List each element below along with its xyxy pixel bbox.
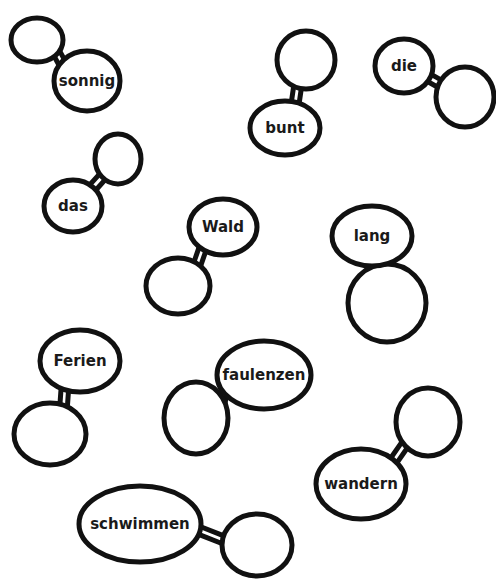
word-label: faulenzen bbox=[223, 366, 306, 384]
empty-speech-bubble bbox=[396, 388, 460, 456]
empty-speech-bubble bbox=[277, 31, 335, 89]
word-group-ferien: Ferien bbox=[14, 330, 120, 465]
word-label: wandern bbox=[324, 475, 398, 493]
empty-speech-bubble bbox=[436, 67, 494, 127]
word-group-lang: lang bbox=[332, 206, 426, 342]
word-label: bunt bbox=[265, 119, 304, 137]
empty-speech-bubble bbox=[348, 264, 426, 342]
word-label: das bbox=[58, 197, 88, 215]
empty-speech-bubble bbox=[95, 134, 141, 184]
word-group-schwimmen: schwimmen bbox=[79, 486, 292, 576]
word-group-wald: Wald bbox=[146, 199, 257, 314]
word-label: lang bbox=[354, 227, 391, 245]
empty-speech-bubble bbox=[222, 514, 292, 576]
empty-speech-bubble bbox=[146, 258, 210, 314]
word-label: schwimmen bbox=[90, 515, 190, 533]
word-group-die: die bbox=[375, 39, 494, 127]
word-label: Wald bbox=[202, 218, 244, 236]
word-group-faulenzen: faulenzen bbox=[164, 341, 311, 454]
word-label: Ferien bbox=[53, 352, 106, 370]
word-group-bunt: bunt bbox=[250, 31, 335, 155]
word-group-wandern: wandern bbox=[316, 388, 460, 519]
word-group-das: das bbox=[44, 134, 141, 232]
empty-speech-bubble bbox=[164, 382, 228, 454]
word-group-sonnig: sonnig bbox=[11, 18, 120, 111]
empty-speech-bubble bbox=[14, 403, 86, 465]
word-label: sonnig bbox=[59, 72, 115, 90]
empty-speech-bubble bbox=[11, 18, 63, 62]
worksheet-canvas: sonnig bunt die das Wald lang Ferien fau… bbox=[0, 0, 496, 585]
word-label: die bbox=[391, 57, 417, 75]
